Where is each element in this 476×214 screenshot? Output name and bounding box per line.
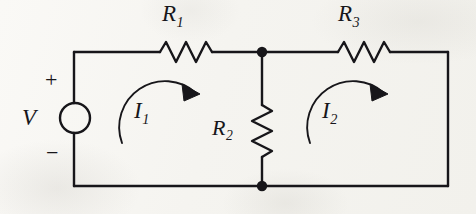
resistor-r2-label-base: R xyxy=(212,115,225,140)
circuit-diagram-figure: R1 R3 R2 V + − I1 I2 xyxy=(0,0,476,214)
resistor-r2-zigzag xyxy=(252,105,272,157)
mesh-current-arrow-i1 xyxy=(119,81,200,143)
resistor-r2-label-sub: 2 xyxy=(226,128,233,143)
junction-node-bottom xyxy=(257,181,267,191)
voltage-source-label: V xyxy=(22,106,36,129)
mesh-current-i1-label-sub: 1 xyxy=(142,111,149,127)
resistor-r3-label: R3 xyxy=(338,2,360,29)
resistor-r2-label: R2 xyxy=(212,117,233,143)
mesh-current-i1-label-base: I xyxy=(134,98,142,123)
resistor-r1-label-sub: 1 xyxy=(177,14,184,30)
voltage-source-minus-sign: − xyxy=(46,142,58,164)
junction-node-top xyxy=(257,47,267,57)
resistor-r3-zigzag xyxy=(338,42,390,62)
circuit-schematic-canvas xyxy=(0,0,476,214)
voltage-source-circle xyxy=(60,103,90,133)
resistor-r1-zigzag xyxy=(160,42,212,62)
resistor-r3-label-base: R xyxy=(338,1,352,26)
mesh-current-arrow-i2 xyxy=(307,81,388,143)
mesh-current-i2-label: I2 xyxy=(322,99,337,126)
voltage-source-plus-sign: + xyxy=(45,69,57,91)
resistor-r1-label-base: R xyxy=(162,1,176,26)
circuit-wires xyxy=(74,42,448,186)
resistor-r1-label: R1 xyxy=(162,2,184,29)
mesh-current-i1-label: I1 xyxy=(134,99,149,126)
mesh-current-i2-label-base: I xyxy=(322,98,330,123)
mesh-current-i2-label-sub: 2 xyxy=(330,111,337,127)
resistor-r3-label-sub: 3 xyxy=(353,14,360,30)
